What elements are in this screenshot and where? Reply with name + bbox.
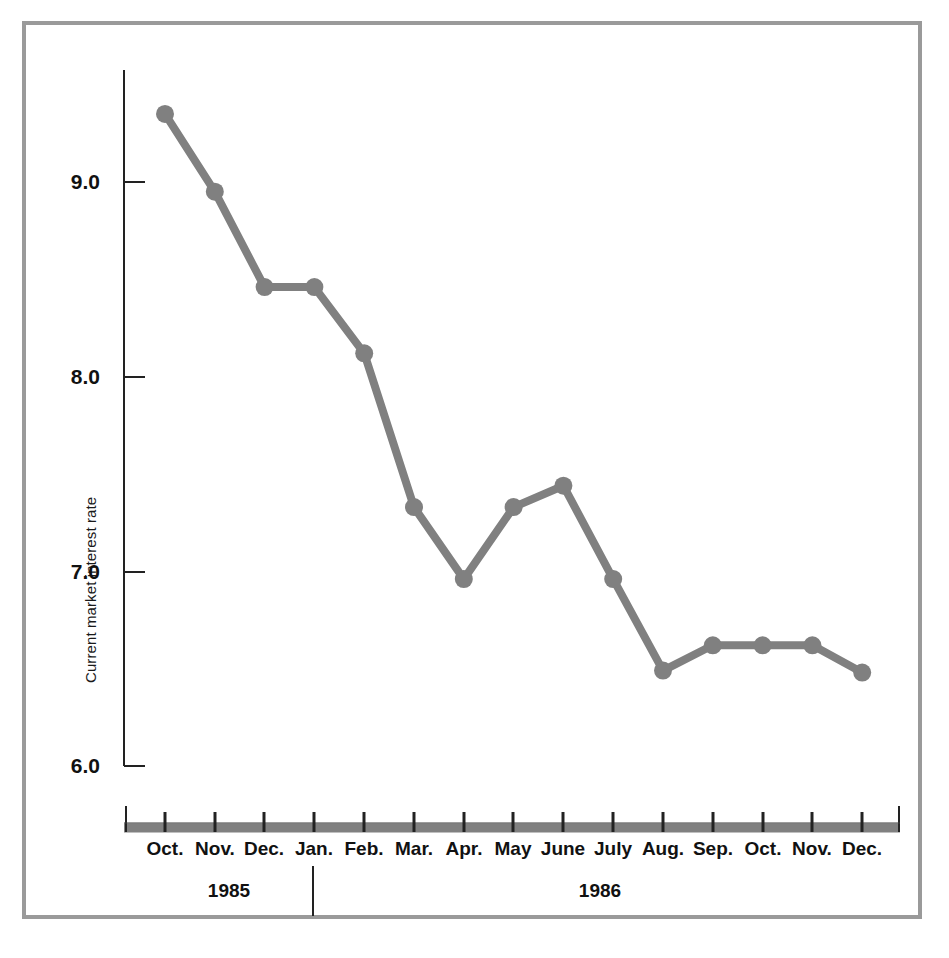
data-point (256, 278, 274, 296)
data-point (505, 498, 523, 516)
year-label-1985: 1985 (169, 880, 289, 902)
y-tick-label-6: 6.0 (42, 755, 100, 776)
line-chart: Current market interest rate 9.0 8.0 7.0… (0, 0, 949, 958)
x-tick-label-14: Dec. (825, 838, 899, 860)
data-point (554, 477, 572, 495)
y-tick-label-9: 9.0 (42, 171, 100, 192)
data-point (704, 636, 722, 654)
data-point (604, 570, 622, 588)
plot-area (0, 0, 949, 958)
series-line (165, 114, 862, 673)
data-point (405, 498, 423, 516)
y-tick-label-8: 8.0 (42, 366, 100, 387)
data-point (355, 344, 373, 362)
data-point (853, 664, 871, 682)
data-point (803, 636, 821, 654)
data-point (754, 636, 772, 654)
data-point (654, 662, 672, 680)
data-point (156, 105, 174, 123)
data-point (455, 570, 473, 588)
y-tick-label-7: 7.0 (42, 561, 100, 582)
series-markers (156, 105, 871, 682)
data-point (305, 278, 323, 296)
year-label-1986: 1986 (540, 880, 660, 902)
data-point (206, 183, 224, 201)
